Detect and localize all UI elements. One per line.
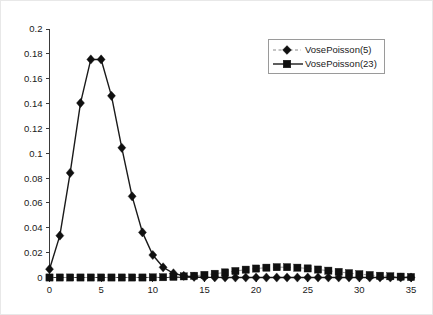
legend: VosePoisson(5) VosePoisson(23) [269, 40, 385, 74]
y-tick-label: 0.12 [24, 123, 43, 134]
poisson-pmf-chart: 00.020.040.060.080.10.120.140.160.180.2 … [1, 1, 433, 315]
y-tick-label: 0.14 [24, 98, 43, 109]
data-point-marker [160, 274, 167, 281]
data-point-marker [107, 91, 115, 100]
y-tick-label: 0.2 [29, 23, 42, 34]
data-point-marker [149, 274, 156, 281]
data-point-marker [304, 265, 311, 272]
data-point-marker [294, 264, 301, 271]
series-markers-vosepoisson-5 [46, 55, 416, 282]
x-tick-label-group: 05101520253035 [47, 284, 416, 295]
y-axis-group: 00.020.040.060.080.10.120.140.160.180.2 [24, 23, 50, 283]
y-tick-label: 0.18 [24, 48, 43, 59]
legend-label-vosepoisson-23: VosePoisson(23) [305, 58, 377, 69]
data-point-marker [283, 264, 290, 271]
y-tick-label-group: 00.020.040.060.080.10.120.140.160.180.2 [24, 23, 43, 283]
data-point-marker [67, 274, 74, 281]
data-point-marker [118, 274, 125, 281]
data-point-marker [66, 168, 74, 177]
data-point-marker [56, 274, 63, 281]
y-tick-label: 0.16 [24, 73, 43, 84]
x-tick-label: 10 [147, 284, 158, 295]
y-tick-label: 0.08 [24, 173, 43, 184]
x-tick-label: 20 [251, 284, 262, 295]
data-point-marker [46, 274, 53, 281]
data-point-marker [262, 273, 270, 282]
series-line-vosepoisson-23 [50, 59, 412, 277]
x-tick-label: 0 [47, 284, 52, 295]
data-point-marker [46, 265, 54, 274]
data-point-marker [263, 264, 270, 271]
x-tick-label: 35 [406, 284, 417, 295]
data-point-marker [56, 231, 64, 240]
x-tick-label: 15 [199, 284, 210, 295]
legend-square-icon [283, 60, 291, 68]
data-point-marker [87, 55, 95, 64]
series-group [46, 55, 416, 282]
legend-label-vosepoisson-5: VosePoisson(5) [305, 44, 372, 55]
data-point-marker [98, 274, 105, 281]
x-tick-label: 30 [354, 284, 365, 295]
y-tick-label: 0.04 [24, 222, 43, 233]
data-point-marker [314, 266, 321, 273]
data-point-marker [273, 273, 281, 282]
data-point-marker [139, 274, 146, 281]
chart-figure: 00.020.040.060.080.10.120.140.160.180.2 … [0, 0, 433, 315]
data-point-marker [129, 274, 136, 281]
data-point-marker [108, 274, 115, 281]
x-tick-label: 5 [98, 284, 103, 295]
legend-entry-vosepoisson-23[interactable]: VosePoisson(23) [273, 58, 377, 69]
data-point-marker [314, 273, 322, 282]
y-tick-label: 0 [37, 272, 42, 283]
data-point-marker [283, 273, 291, 282]
data-point-marker [252, 265, 259, 272]
data-point-marker [293, 273, 301, 282]
data-point-marker [76, 98, 84, 107]
data-point-marker [138, 228, 146, 237]
y-tick-label: 0.02 [24, 247, 43, 258]
data-point-marker [118, 143, 126, 152]
data-point-marker [242, 266, 249, 273]
y-tick-label: 0.1 [29, 148, 42, 159]
data-point-marker [77, 274, 84, 281]
y-tick-group [46, 29, 50, 278]
data-point-marker [128, 192, 136, 201]
x-tick-label: 25 [302, 284, 313, 295]
data-point-marker [87, 274, 94, 281]
data-point-marker [273, 264, 280, 271]
y-tick-label: 0.06 [24, 197, 43, 208]
data-point-marker [97, 55, 105, 64]
data-point-marker [304, 273, 312, 282]
data-point-marker [242, 273, 250, 282]
data-point-marker [252, 273, 260, 282]
